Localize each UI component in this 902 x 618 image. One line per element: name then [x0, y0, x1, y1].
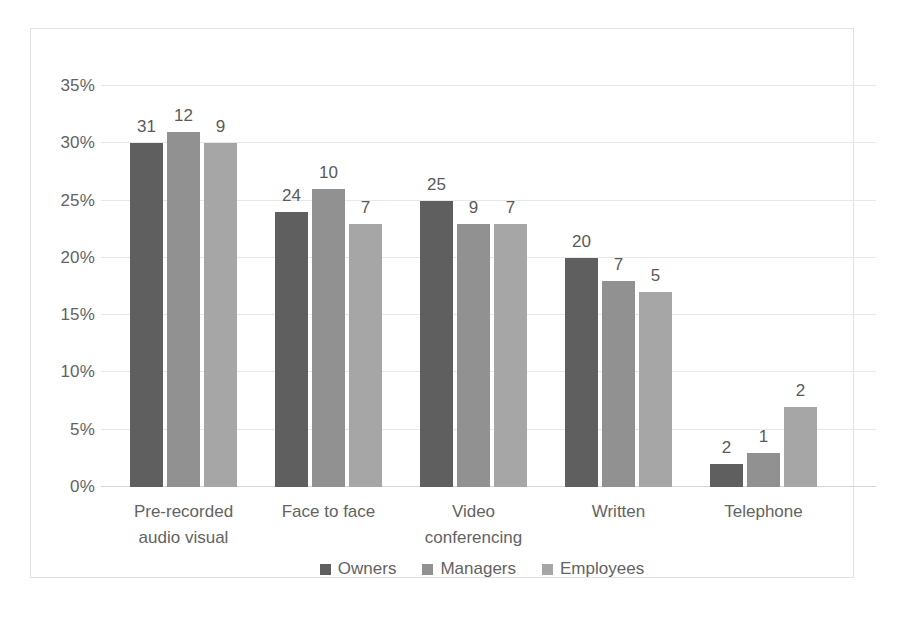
bar-column: 7	[494, 86, 527, 487]
bar-group: 2597	[420, 86, 527, 487]
bar-employees[interactable]	[204, 143, 237, 487]
bar-managers[interactable]	[312, 189, 345, 487]
bar-column: 9	[457, 86, 490, 487]
y-axis-tick-label: 10%	[43, 362, 95, 382]
bar-data-label: 5	[651, 266, 660, 286]
y-axis-tick-label: 15%	[43, 305, 95, 325]
bar-column: 24	[275, 86, 308, 487]
bar-column: 2	[784, 86, 817, 487]
x-axis-label-line: audio visual	[105, 525, 262, 551]
bar-group: 24107	[275, 86, 382, 487]
bar-managers[interactable]	[167, 132, 200, 487]
x-axis-label: Face to face	[250, 499, 407, 525]
bar-data-label: 10	[319, 163, 338, 183]
bar-data-label: 20	[572, 232, 591, 252]
bar-column: 7	[602, 86, 635, 487]
bar-column: 1	[747, 86, 780, 487]
bar-data-label: 7	[361, 198, 370, 218]
legend-label: Employees	[560, 559, 644, 579]
bar-owners[interactable]	[565, 258, 598, 487]
bar-data-label: 2	[796, 381, 805, 401]
bar-data-label: 12	[174, 106, 193, 126]
bar-column: 9	[204, 86, 237, 487]
bar-data-label: 31	[137, 117, 156, 137]
x-axis-label: Pre-recordedaudio visual	[105, 499, 262, 551]
bar-owners[interactable]	[710, 464, 743, 487]
y-axis-tick-label: 30%	[43, 133, 95, 153]
bar-column: 10	[312, 86, 345, 487]
bar-data-label: 7	[614, 255, 623, 275]
x-axis-category-labels: Pre-recordedaudio visualFace to faceVide…	[101, 499, 876, 551]
y-axis: 35%30%25%20%15%10%5%0%	[39, 86, 95, 487]
bar-data-label: 7	[506, 198, 515, 218]
bar-column: 2	[710, 86, 743, 487]
bar-column: 5	[639, 86, 672, 487]
x-axis-label: Telephone	[685, 499, 842, 525]
x-axis-label-line: conferencing	[395, 525, 552, 551]
bar-data-label: 2	[722, 438, 731, 458]
bar-employees[interactable]	[639, 292, 672, 487]
x-axis-label: Written	[540, 499, 697, 525]
y-axis-tick-label: 20%	[43, 248, 95, 268]
y-axis-tick-label: 25%	[43, 191, 95, 211]
legend-swatch-icon	[320, 564, 331, 575]
bar-group: 212	[710, 86, 817, 487]
x-axis-label-line: Pre-recorded	[105, 499, 262, 525]
chart-legend: OwnersManagersEmployees	[31, 559, 902, 579]
bar-data-label: 1	[759, 427, 768, 447]
bar-managers[interactable]	[747, 453, 780, 487]
bar-group: 31129	[130, 86, 237, 487]
y-axis-tick-label: 0%	[43, 477, 95, 497]
bar-column: 25	[420, 86, 453, 487]
legend-label: Managers	[440, 559, 516, 579]
legend-swatch-icon	[422, 564, 433, 575]
bar-column: 7	[349, 86, 382, 487]
bar-owners[interactable]	[275, 212, 308, 487]
bar-data-label: 9	[216, 117, 225, 137]
bar-managers[interactable]	[602, 281, 635, 487]
bar-data-label: 24	[282, 186, 301, 206]
bar-owners[interactable]	[420, 201, 453, 487]
x-axis-label-line: Face to face	[250, 499, 407, 525]
chart-container: 35%30%25%20%15%10%5%0% 31129241072597207…	[30, 28, 854, 578]
bar-managers[interactable]	[457, 224, 490, 488]
y-axis-tick-label: 5%	[43, 420, 95, 440]
legend-swatch-icon	[542, 564, 553, 575]
legend-label: Owners	[338, 559, 397, 579]
plot-area: 311292410725972075212	[101, 86, 876, 487]
legend-item-managers[interactable]: Managers	[422, 559, 516, 579]
bar-owners[interactable]	[130, 143, 163, 487]
bar-column: 31	[130, 86, 163, 487]
x-axis-label: Videoconferencing	[395, 499, 552, 551]
bar-data-label: 25	[427, 175, 446, 195]
bar-column: 20	[565, 86, 598, 487]
bar-data-label: 9	[469, 198, 478, 218]
bar-column: 12	[167, 86, 200, 487]
legend-item-owners[interactable]: Owners	[320, 559, 397, 579]
bar-employees[interactable]	[494, 224, 527, 488]
x-axis-label-line: Written	[540, 499, 697, 525]
x-axis-label-line: Video	[395, 499, 552, 525]
y-axis-tick-label: 35%	[43, 76, 95, 96]
bar-employees[interactable]	[784, 407, 817, 487]
legend-item-employees[interactable]: Employees	[542, 559, 644, 579]
bar-group: 2075	[565, 86, 672, 487]
x-axis-label-line: Telephone	[685, 499, 842, 525]
bar-employees[interactable]	[349, 224, 382, 488]
